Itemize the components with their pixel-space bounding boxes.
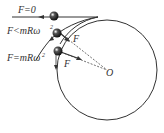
label-force-upper: F [72, 33, 80, 44]
label-f-less: F<mRω [6, 25, 40, 36]
arrow-icon [38, 15, 44, 19]
label-f-equal-sup: 2 [42, 52, 45, 58]
label-f-zero: F=0 [17, 4, 36, 15]
label-center-o: O [106, 67, 113, 78]
ball-f-equal [54, 47, 63, 56]
label-f-equal: F=mRω [6, 52, 40, 63]
diagram-canvas: F=0 F<mRω 2 F=mRω 2 F F O [0, 0, 164, 133]
ball-f-zero [50, 12, 59, 21]
circular-motion-diagram: F=0 F<mRω 2 F=mRω 2 F F O [0, 0, 164, 133]
ball-f-less [53, 29, 62, 38]
label-force-lower: F [63, 58, 71, 69]
label-f-less-sup: 2 [50, 24, 53, 30]
